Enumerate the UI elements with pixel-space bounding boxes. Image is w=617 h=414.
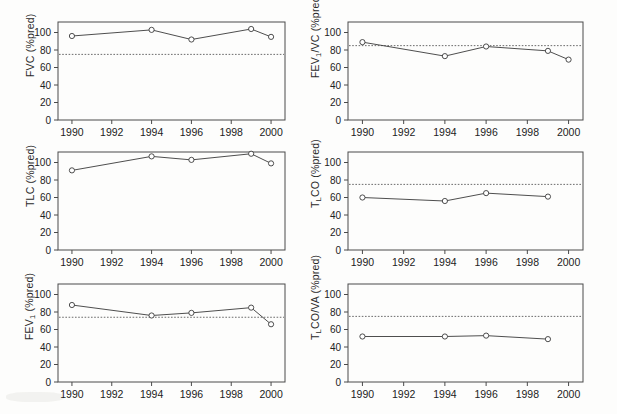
- y-tick-label: 20: [40, 227, 52, 238]
- scan-artifact: [6, 392, 64, 402]
- y-tick-label: 100: [34, 157, 51, 168]
- y-tick-label: 60: [330, 192, 342, 203]
- y-tick-label: 20: [330, 227, 342, 238]
- y-tick-label: 0: [335, 245, 341, 256]
- y-tick-label: 60: [40, 324, 52, 335]
- data-point-marker: [566, 57, 571, 62]
- data-point-marker: [442, 54, 447, 59]
- data-point-marker: [149, 313, 154, 318]
- data-point-marker: [268, 322, 273, 327]
- y-tick-label: 60: [330, 62, 342, 73]
- data-point-marker: [149, 27, 154, 32]
- x-tick-label: 1992: [100, 388, 124, 400]
- y-tick-label: 0: [335, 377, 341, 388]
- x-tick-label: 1994: [140, 256, 164, 268]
- x-tick-label: 1992: [100, 256, 124, 268]
- plot-area-tlco: 020406080100199019921994199619982000: [0, 0, 617, 414]
- data-point-marker: [249, 26, 254, 31]
- data-point-marker: [268, 34, 273, 39]
- y-tick-label: 80: [330, 307, 342, 318]
- x-tick-label: 1992: [100, 126, 124, 138]
- data-point-marker: [360, 195, 365, 200]
- data-point-marker: [484, 191, 489, 196]
- y-tick-label: 100: [324, 27, 341, 38]
- x-tick-label: 1992: [392, 388, 416, 400]
- data-line-fev1: [72, 305, 271, 324]
- data-point-marker: [189, 157, 194, 162]
- data-point-marker: [189, 310, 194, 315]
- x-tick-label: 1994: [140, 388, 164, 400]
- data-point-marker: [545, 337, 550, 342]
- x-tick-label: 1998: [516, 126, 540, 138]
- plot-frame: [348, 284, 583, 382]
- data-point-marker: [69, 168, 74, 173]
- plot-frame: [348, 152, 583, 250]
- y-tick-label: 40: [40, 80, 52, 91]
- pulmonary-function-figure: FVC (%pred)02040608010019901992199419961…: [0, 0, 617, 414]
- y-tick-label: 0: [45, 245, 51, 256]
- chart-panel-tlco: TLCO (%pred)0204060801001990199219941996…: [0, 0, 617, 414]
- x-tick-label: 1990: [60, 126, 84, 138]
- plot-frame: [58, 284, 285, 382]
- y-tick-label: 60: [330, 324, 342, 335]
- x-tick-label: 1996: [474, 388, 498, 400]
- y-tick-label: 80: [40, 45, 52, 56]
- x-tick-label: 1998: [516, 256, 540, 268]
- x-tick-label: 2000: [557, 126, 581, 138]
- data-line-fev1-vc: [362, 42, 568, 60]
- x-tick-label: 1998: [220, 388, 244, 400]
- y-tick-label: 100: [34, 289, 51, 300]
- plot-area-fev1-vc: 020406080100199019921994199619982000: [0, 0, 617, 414]
- y-tick-label: 40: [330, 210, 342, 221]
- x-tick-label: 1994: [433, 126, 457, 138]
- plot-frame: [58, 152, 285, 250]
- y-tick-label: 0: [335, 115, 341, 126]
- data-point-marker: [189, 37, 194, 42]
- y-tick-label: 80: [40, 175, 52, 186]
- data-line-tlc: [72, 154, 271, 171]
- plot-area-fev1: 020406080100199019921994199619982000: [0, 0, 617, 414]
- x-tick-label: 1996: [180, 256, 204, 268]
- x-tick-label: 1990: [351, 388, 375, 400]
- x-tick-label: 2000: [259, 256, 283, 268]
- plot-frame: [58, 22, 285, 120]
- x-tick-label: 1996: [180, 126, 204, 138]
- plot-area-tlc: 020406080100199019921994199619982000: [0, 0, 617, 414]
- chart-panel-tlco-va: TLCO/VA (%pred)0204060801001990199219941…: [0, 0, 617, 414]
- x-tick-label: 1996: [474, 256, 498, 268]
- data-point-marker: [249, 151, 254, 156]
- x-tick-label: 1994: [433, 256, 457, 268]
- chart-panel-fev1-vc: FEV1/VC (%pred)0204060801001990199219941…: [0, 0, 617, 414]
- data-point-marker: [360, 334, 365, 339]
- x-tick-label: 2000: [557, 388, 581, 400]
- x-tick-label: 2000: [259, 126, 283, 138]
- x-tick-label: 1990: [60, 256, 84, 268]
- plot-area-tlco-va: 020406080100199019921994199619982000: [0, 0, 617, 414]
- y-tick-label: 80: [40, 307, 52, 318]
- data-point-marker: [69, 302, 74, 307]
- x-tick-label: 1992: [392, 126, 416, 138]
- data-point-marker: [268, 161, 273, 166]
- x-tick-label: 1996: [180, 388, 204, 400]
- x-tick-label: 1998: [220, 126, 244, 138]
- data-point-marker: [360, 40, 365, 45]
- data-point-marker: [149, 154, 154, 159]
- data-point-marker: [442, 334, 447, 339]
- x-tick-label: 1994: [433, 388, 457, 400]
- x-tick-label: 2000: [259, 388, 283, 400]
- y-tick-label: 40: [40, 342, 52, 353]
- data-line-tlco-va: [362, 336, 548, 340]
- y-tick-label: 20: [330, 359, 342, 370]
- chart-panel-fvc: FVC (%pred)02040608010019901992199419961…: [0, 0, 617, 414]
- x-tick-label: 1994: [140, 126, 164, 138]
- data-point-marker: [442, 198, 447, 203]
- x-tick-label: 1990: [351, 126, 375, 138]
- y-tick-label: 0: [45, 377, 51, 388]
- y-tick-label: 20: [40, 97, 52, 108]
- x-tick-label: 2000: [557, 256, 581, 268]
- y-tick-label: 20: [40, 359, 52, 370]
- y-tick-label: 100: [324, 157, 341, 168]
- y-tick-label: 80: [330, 175, 342, 186]
- plot-area-fvc: 020406080100199019921994199619982000: [0, 0, 617, 414]
- data-point-marker: [249, 305, 254, 310]
